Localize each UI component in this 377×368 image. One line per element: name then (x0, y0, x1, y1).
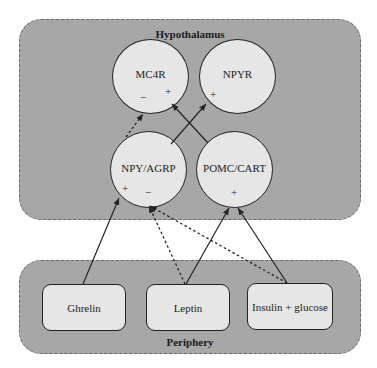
mc4r-node: MC4R − + (112, 39, 189, 114)
npyr-node: NPYR + (199, 39, 276, 114)
ghrelin-node: Ghrelin (42, 284, 126, 331)
ghrelin-label: Ghrelin (67, 302, 101, 314)
npy-agrp-minus-sign: − (145, 186, 151, 198)
npy-agrp-plus-sign: + (122, 182, 128, 194)
npy-agrp-label: NPY/AGRP (111, 162, 186, 174)
pomc-cart-node: POMC/CART + (196, 131, 273, 208)
npyr-label: NPYR (200, 68, 275, 80)
pomc-cart-label: POMC/CART (197, 162, 272, 174)
hypothalamus-title: Hypothalamus (20, 28, 360, 40)
pomc-cart-plus-sign: + (231, 186, 237, 198)
mc4r-label: MC4R (113, 68, 188, 80)
periphery-title: Periphery (20, 336, 360, 348)
leptin-label: Leptin (174, 302, 203, 314)
mc4r-minus-sign: − (140, 91, 146, 103)
insulin-glucose-node: Insulin + glucose (247, 283, 333, 330)
npyr-plus-sign: + (210, 88, 216, 100)
npy-agrp-node: NPY/AGRP + − (110, 131, 187, 208)
hypothalamus-panel: Hypothalamus (19, 19, 361, 220)
leptin-node: Leptin (146, 284, 230, 331)
mc4r-plus-sign: + (165, 85, 171, 97)
insulin-glucose-label: Insulin + glucose (252, 301, 328, 313)
